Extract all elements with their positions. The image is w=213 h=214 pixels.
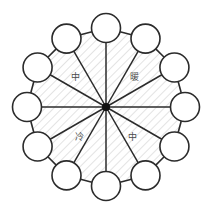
wheel-node-12 — [52, 24, 81, 53]
wheel-node-5 — [160, 132, 189, 161]
wheel-node-11 — [23, 53, 52, 82]
wheel-node-3 — [160, 53, 189, 82]
wheel-node-10 — [13, 93, 42, 122]
diagram-canvas: 中 暖 冷 中 — [0, 0, 213, 214]
quadrant-label-lower-right: 中 — [128, 133, 137, 142]
wheel-node-4 — [171, 93, 200, 122]
quadrant-label-lower-left: 冷 — [75, 133, 84, 142]
wheel-node-2 — [131, 24, 160, 53]
wheel-node-9 — [23, 132, 52, 161]
color-temperature-wheel — [0, 0, 213, 214]
quadrant-label-upper-right: 暖 — [130, 73, 139, 82]
center-hub — [102, 103, 110, 111]
wheel-node-1 — [92, 14, 121, 43]
quadrant-label-upper-left: 中 — [71, 73, 80, 82]
wheel-node-6 — [131, 161, 160, 190]
wheel-node-7 — [92, 172, 121, 201]
wheel-node-8 — [52, 161, 81, 190]
